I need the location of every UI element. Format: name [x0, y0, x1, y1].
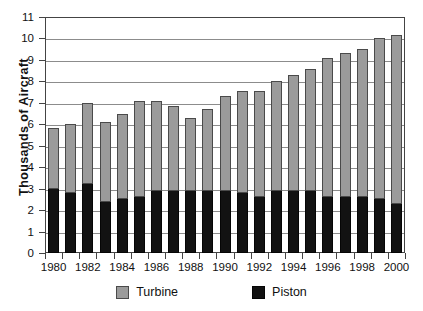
bar-segment-piston — [391, 204, 402, 253]
bar-segment-piston — [305, 191, 316, 253]
bar-segment-turbine — [305, 69, 316, 191]
x-axis-tick — [216, 253, 217, 259]
y-axis-tick-label: 5 — [6, 140, 34, 152]
bar-segment-piston — [48, 189, 59, 253]
bar-segment-turbine — [168, 106, 179, 191]
x-axis-tick — [371, 253, 372, 259]
x-axis-tick — [285, 253, 286, 259]
x-axis-tick — [96, 253, 97, 259]
y-axis-tick-label: 8 — [6, 75, 34, 87]
bar-segment-turbine — [254, 91, 265, 197]
y-axis-tick-label: 9 — [6, 54, 34, 66]
bar-segment-turbine — [185, 118, 196, 191]
x-axis-tick — [62, 253, 63, 259]
x-axis-tick — [45, 253, 46, 259]
bar-1983 — [100, 122, 111, 253]
legend-item-piston[interactable]: Piston — [252, 285, 307, 299]
x-axis-tick — [114, 253, 115, 259]
bar-segment-turbine — [391, 35, 402, 203]
bar-segment-piston — [134, 197, 145, 253]
bar-segment-turbine — [237, 91, 248, 193]
x-axis-tick — [234, 253, 235, 259]
bar-segment-turbine — [151, 101, 162, 191]
bar-segment-piston — [322, 197, 333, 253]
bar-1980 — [48, 128, 59, 254]
y-axis-tick-label: 11 — [6, 11, 34, 23]
bar-segment-turbine — [271, 81, 282, 190]
y-axis-tick-label: 4 — [6, 161, 34, 173]
bar-1993 — [271, 81, 282, 253]
bar-1997 — [340, 53, 351, 253]
bar-1991 — [237, 91, 248, 253]
bar-1992 — [254, 91, 265, 253]
bar-1981 — [65, 124, 76, 253]
y-axis-tick-label: 3 — [6, 183, 34, 195]
x-axis-tick — [268, 253, 269, 259]
bar-segment-piston — [100, 202, 111, 253]
bar-1988 — [185, 118, 196, 253]
chart-root: Thousands of Aircraft 01234567891011 198… — [0, 0, 423, 311]
bar-segment-piston — [357, 197, 368, 253]
bar-1995 — [305, 69, 316, 254]
x-axis-tick — [405, 253, 406, 259]
bar-segment-piston — [168, 191, 179, 253]
y-axis-tick-label: 6 — [6, 118, 34, 130]
x-axis-tick — [388, 253, 389, 259]
legend-swatch-icon — [252, 286, 265, 299]
x-axis-tick — [336, 253, 337, 259]
bar-segment-turbine — [220, 96, 231, 190]
bar-segment-piston — [340, 197, 351, 253]
bar-segment-turbine — [357, 49, 368, 197]
y-axis-tick-label: 10 — [6, 32, 34, 44]
bar-segment-piston — [288, 191, 299, 253]
bar-segment-piston — [117, 199, 128, 253]
legend-swatch-icon — [116, 286, 129, 299]
bar-segment-turbine — [48, 128, 59, 189]
x-axis-tick — [319, 253, 320, 259]
bar-1987 — [168, 106, 179, 253]
bar-1985 — [134, 101, 145, 253]
bar-segment-piston — [374, 199, 385, 253]
bar-segment-turbine — [202, 109, 213, 191]
bar-segment-piston — [254, 197, 265, 253]
x-axis-tick — [182, 253, 183, 259]
bar-segment-turbine — [134, 101, 145, 198]
y-axis-tick-label: 2 — [6, 204, 34, 216]
chart-legend: TurbinePiston — [0, 285, 423, 299]
x-axis-tick — [148, 253, 149, 259]
bar-1984 — [117, 114, 128, 253]
bar-segment-piston — [65, 193, 76, 253]
legend-label: Piston — [272, 285, 307, 299]
bar-segment-piston — [237, 193, 248, 253]
bar-series-container — [45, 17, 405, 253]
bar-1986 — [151, 101, 162, 253]
bar-segment-turbine — [82, 103, 93, 185]
legend-item-turbine[interactable]: Turbine — [116, 285, 178, 299]
bar-segment-piston — [185, 191, 196, 253]
bar-segment-turbine — [117, 114, 128, 200]
bar-segment-turbine — [288, 75, 299, 191]
bar-1990 — [220, 96, 231, 253]
x-axis-tick — [199, 253, 200, 259]
y-axis-tick-label: 1 — [6, 226, 34, 238]
bar-segment-turbine — [374, 38, 385, 199]
y-axis-tick-label: 0 — [6, 247, 34, 259]
bar-segment-piston — [202, 191, 213, 253]
x-axis-tick-label: 2000 — [376, 261, 416, 273]
bar-2000 — [391, 35, 402, 253]
bar-segment-turbine — [65, 124, 76, 193]
bar-segment-piston — [220, 191, 231, 253]
bar-segment-piston — [271, 191, 282, 253]
bar-segment-piston — [82, 184, 93, 253]
legend-label: Turbine — [136, 285, 178, 299]
bar-1998 — [357, 49, 368, 253]
bar-segment-turbine — [100, 122, 111, 201]
x-axis-tick — [354, 253, 355, 259]
x-axis-tick — [131, 253, 132, 259]
x-axis-tick — [302, 253, 303, 259]
bar-1999 — [374, 38, 385, 253]
bar-segment-turbine — [322, 58, 333, 197]
bar-segment-turbine — [340, 53, 351, 197]
bar-segment-piston — [151, 191, 162, 253]
x-axis-tick — [165, 253, 166, 259]
